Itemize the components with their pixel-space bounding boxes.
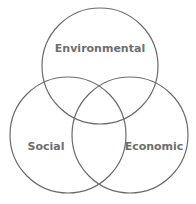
economic-circle <box>72 77 188 193</box>
social-circle <box>10 77 126 193</box>
social-label: Social <box>28 140 65 153</box>
environmental-label: Environmental <box>55 42 145 55</box>
environmental-circle <box>42 8 158 124</box>
economic-label: Economic <box>125 140 184 153</box>
venn-diagram: Environmental Social Economic <box>0 0 196 204</box>
